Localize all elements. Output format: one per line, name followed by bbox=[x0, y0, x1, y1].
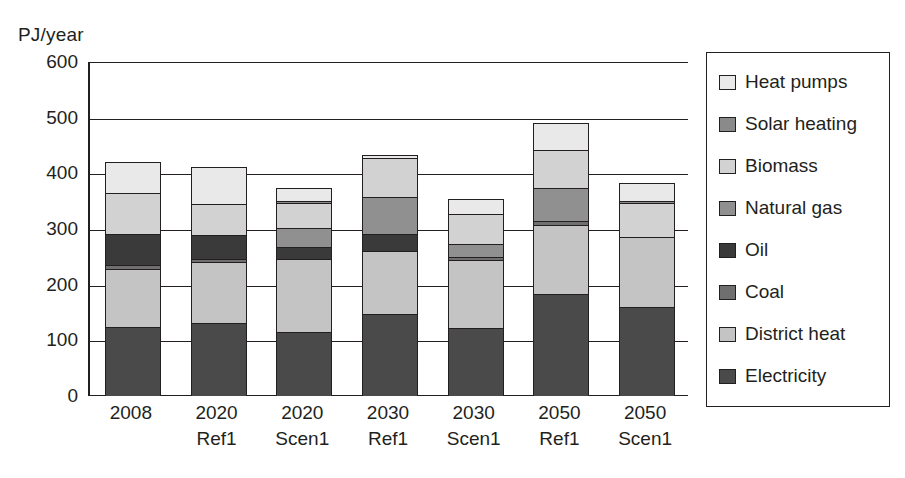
bar-segment-electricity[interactable] bbox=[620, 308, 674, 396]
x-label-year: 2020 bbox=[259, 400, 345, 426]
bar-segment-district-heat[interactable] bbox=[449, 261, 503, 329]
bar-group[interactable] bbox=[105, 61, 161, 395]
bar-segment-natural-gas[interactable] bbox=[534, 189, 588, 222]
x-label-scenario: Ref1 bbox=[517, 426, 603, 452]
bar-group[interactable] bbox=[448, 61, 504, 395]
bar-group[interactable] bbox=[619, 61, 675, 395]
bar-segment-district-heat[interactable] bbox=[106, 270, 160, 328]
legend-item-solar-heating[interactable]: Solar heating bbox=[707, 103, 889, 145]
y-axis-tick-label: 200 bbox=[46, 274, 78, 296]
legend-item-coal[interactable]: Coal bbox=[707, 271, 889, 313]
bar-segment-electricity[interactable] bbox=[192, 324, 246, 396]
legend-label: Electricity bbox=[745, 365, 826, 387]
y-axis-unit-label: PJ/year bbox=[18, 24, 84, 46]
legend-swatch-icon bbox=[719, 201, 736, 216]
bar-segment-electricity[interactable] bbox=[534, 295, 588, 396]
stacked-bar[interactable] bbox=[619, 183, 675, 395]
legend-item-district-heat[interactable]: District heat bbox=[707, 313, 889, 355]
stacked-bar[interactable] bbox=[105, 162, 161, 395]
bar-segment-electricity[interactable] bbox=[106, 328, 160, 396]
stacked-bar[interactable] bbox=[533, 123, 589, 395]
y-axis-tick-label: 500 bbox=[46, 107, 78, 129]
x-axis-category-label: 2008 bbox=[88, 400, 174, 426]
y-axis-tick-label: 600 bbox=[46, 51, 78, 73]
bar-segment-district-heat[interactable] bbox=[534, 226, 588, 295]
x-label-scenario: Scen1 bbox=[602, 426, 688, 452]
stacked-bar[interactable] bbox=[191, 167, 247, 395]
bar-segment-natural-gas[interactable] bbox=[277, 229, 331, 248]
bar-segment-district-heat[interactable] bbox=[277, 260, 331, 332]
bar-segment-biomass[interactable] bbox=[363, 159, 417, 198]
x-axis-label-layer: 20082020Ref12020Scen12030Ref12030Scen120… bbox=[88, 400, 688, 470]
bar-segment-electricity[interactable] bbox=[277, 333, 331, 396]
x-label-year: 2020 bbox=[174, 400, 260, 426]
bar-segment-heat-pumps[interactable] bbox=[534, 124, 588, 151]
x-axis-category-label: 2050Ref1 bbox=[517, 400, 603, 452]
bar-series-layer bbox=[90, 63, 688, 395]
bar-segment-natural-gas[interactable] bbox=[363, 198, 417, 234]
legend-item-electricity[interactable]: Electricity bbox=[707, 355, 889, 397]
legend-item-oil[interactable]: Oil bbox=[707, 229, 889, 271]
bar-segment-oil[interactable] bbox=[277, 248, 331, 260]
bar-group[interactable] bbox=[276, 61, 332, 395]
legend-label: Oil bbox=[745, 239, 768, 261]
bar-group[interactable] bbox=[191, 61, 247, 395]
legend-swatch-icon bbox=[719, 327, 736, 342]
bar-segment-biomass[interactable] bbox=[277, 204, 331, 229]
legend-label: District heat bbox=[745, 323, 845, 345]
legend-item-natural-gas[interactable]: Natural gas bbox=[707, 187, 889, 229]
x-axis-category-label: 2050Scen1 bbox=[602, 400, 688, 452]
bar-segment-biomass[interactable] bbox=[449, 215, 503, 245]
bar-segment-biomass[interactable] bbox=[192, 205, 246, 236]
bar-segment-oil[interactable] bbox=[363, 235, 417, 253]
legend-label: Solar heating bbox=[745, 113, 857, 135]
bar-segment-biomass[interactable] bbox=[620, 204, 674, 239]
bar-segment-heat-pumps[interactable] bbox=[449, 200, 503, 216]
bar-segment-heat-pumps[interactable] bbox=[106, 163, 160, 195]
legend-swatch-icon bbox=[719, 75, 736, 90]
x-label-year: 2008 bbox=[88, 400, 174, 426]
bar-segment-heat-pumps[interactable] bbox=[620, 184, 674, 202]
x-axis-category-label: 2030Ref1 bbox=[345, 400, 431, 452]
x-axis-category-label: 2020Ref1 bbox=[174, 400, 260, 452]
x-label-year: 2050 bbox=[602, 400, 688, 426]
x-label-scenario: Scen1 bbox=[259, 426, 345, 452]
legend-swatch-icon bbox=[719, 117, 736, 132]
bar-segment-district-heat[interactable] bbox=[363, 252, 417, 315]
bar-group[interactable] bbox=[362, 61, 418, 395]
legend-swatch-icon bbox=[719, 159, 736, 174]
x-axis-category-label: 2020Scen1 bbox=[259, 400, 345, 452]
bar-segment-oil[interactable] bbox=[106, 235, 160, 267]
bar-segment-heat-pumps[interactable] bbox=[192, 168, 246, 205]
bar-segment-natural-gas[interactable] bbox=[449, 245, 503, 258]
legend-label: Heat pumps bbox=[745, 71, 847, 93]
legend-label: Coal bbox=[745, 281, 784, 303]
plot-area bbox=[88, 62, 688, 396]
legend-swatch-icon bbox=[719, 285, 736, 300]
bar-segment-district-heat[interactable] bbox=[192, 263, 246, 324]
bar-segment-electricity[interactable] bbox=[449, 329, 503, 396]
bar-group[interactable] bbox=[533, 61, 589, 395]
x-label-scenario: Scen1 bbox=[431, 426, 517, 452]
bar-segment-electricity[interactable] bbox=[363, 315, 417, 396]
x-label-year: 2030 bbox=[345, 400, 431, 426]
legend: Heat pumpsSolar heatingBiomassNatural ga… bbox=[706, 52, 890, 407]
x-label-year: 2030 bbox=[431, 400, 517, 426]
legend-item-heat-pumps[interactable]: Heat pumps bbox=[707, 61, 889, 103]
x-label-scenario: Ref1 bbox=[345, 426, 431, 452]
stacked-bar[interactable] bbox=[276, 188, 332, 395]
legend-swatch-icon bbox=[719, 369, 736, 384]
legend-label: Biomass bbox=[745, 155, 818, 177]
legend-item-biomass[interactable]: Biomass bbox=[707, 145, 889, 187]
y-axis-tick-label: 100 bbox=[46, 329, 78, 351]
x-label-scenario: Ref1 bbox=[174, 426, 260, 452]
bar-segment-district-heat[interactable] bbox=[620, 238, 674, 308]
bar-segment-oil[interactable] bbox=[192, 236, 246, 260]
legend-label: Natural gas bbox=[745, 197, 842, 219]
bar-segment-biomass[interactable] bbox=[534, 151, 588, 189]
stacked-bar[interactable] bbox=[448, 199, 504, 396]
bar-segment-biomass[interactable] bbox=[106, 194, 160, 234]
x-label-year: 2050 bbox=[517, 400, 603, 426]
stacked-bar[interactable] bbox=[362, 155, 418, 395]
bar-segment-heat-pumps[interactable] bbox=[277, 189, 331, 202]
